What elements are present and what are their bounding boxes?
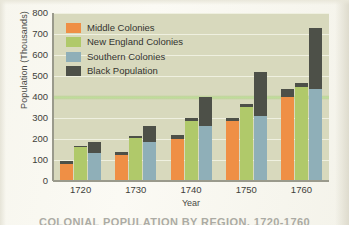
segment-new_england — [240, 107, 253, 181]
bar-1720-new_england[interactable] — [74, 146, 87, 181]
x-tick-1750: 1750 — [219, 184, 274, 195]
legend-swatch-icon — [66, 52, 81, 62]
legend-label: Middle Colonies — [87, 23, 155, 33]
y-tick-500: 500 — [14, 71, 48, 81]
legend-swatch-icon — [66, 23, 81, 33]
legend-label: New England Colonies — [87, 37, 183, 47]
y-tick-800: 800 — [14, 8, 48, 18]
x-tick-1760: 1760 — [274, 184, 329, 195]
legend-label: Black Population — [87, 66, 158, 76]
bar-1750-middle[interactable] — [226, 118, 239, 181]
bar-group-1750 — [219, 13, 274, 181]
figure-caption: COLONIAL POPULATION BY REGION, 1720-1760 — [0, 216, 349, 225]
legend-swatch-icon — [66, 66, 81, 76]
bar-1740-southern[interactable] — [199, 97, 212, 181]
scan-edge-left — [0, 0, 6, 225]
segment-new_england — [185, 121, 198, 181]
bar-1740-new_england[interactable] — [185, 118, 198, 181]
chart-legend: Middle ColoniesNew England ColoniesSouth… — [66, 22, 183, 80]
segment-black-population — [281, 89, 294, 97]
x-tick-1740: 1740 — [163, 184, 218, 195]
segment-southern — [199, 126, 212, 181]
y-tick-400: 400 — [14, 92, 48, 102]
y-axis-tick-labels: 0100200300400500600700800 — [14, 0, 48, 225]
y-tick-200: 200 — [14, 134, 48, 144]
segment-black-population — [88, 142, 101, 154]
x-tick-1730: 1730 — [108, 184, 163, 195]
legend-swatch-icon — [66, 37, 81, 47]
x-axis-tick-labels: 17201730174017501760 — [53, 184, 329, 195]
legend-label: Southern Colonies — [87, 52, 165, 62]
y-axis-line — [52, 13, 54, 181]
bar-1760-middle[interactable] — [281, 89, 294, 181]
y-tick-700: 700 — [14, 29, 48, 39]
segment-southern — [88, 153, 101, 181]
x-axis-label: Year — [53, 198, 329, 208]
segment-middle — [281, 97, 294, 181]
legend-item-1[interactable]: New England Colonies — [66, 37, 183, 48]
bar-1730-new_england[interactable] — [129, 136, 142, 181]
segment-southern — [309, 89, 322, 181]
segment-middle — [171, 139, 184, 181]
bar-1720-southern[interactable] — [88, 142, 101, 181]
segment-southern — [143, 142, 156, 181]
x-axis-line — [53, 180, 329, 182]
segment-southern — [254, 116, 267, 181]
bar-1730-southern[interactable] — [143, 126, 156, 181]
segment-new_england — [295, 87, 308, 181]
legend-item-2[interactable]: Southern Colonies — [66, 51, 183, 62]
scan-edge-top — [0, 0, 349, 5]
bar-1730-middle[interactable] — [115, 152, 128, 181]
segment-black-population — [309, 28, 322, 89]
scan-edge-right — [335, 0, 349, 225]
segment-middle — [226, 121, 239, 181]
bar-1760-southern[interactable] — [309, 28, 322, 181]
y-tick-600: 600 — [14, 50, 48, 60]
chart-figure: Population (Thousands) 01002003004005006… — [0, 0, 349, 225]
segment-middle — [115, 155, 128, 181]
bar-1740-middle[interactable] — [171, 135, 184, 181]
bar-1750-southern[interactable] — [254, 72, 267, 181]
y-tick-100: 100 — [14, 155, 48, 165]
segment-middle — [60, 164, 73, 181]
y-tick-300: 300 — [14, 113, 48, 123]
segment-black-population — [199, 97, 212, 126]
bar-1720-middle[interactable] — [60, 161, 73, 181]
segment-black-population — [143, 126, 156, 142]
bar-group-1760 — [274, 13, 329, 181]
segment-black-population — [254, 72, 267, 116]
y-tick-0: 0 — [14, 176, 48, 186]
segment-new_england — [129, 138, 142, 181]
legend-item-3[interactable]: Black Population — [66, 66, 183, 77]
legend-item-0[interactable]: Middle Colonies — [66, 22, 183, 33]
bar-1760-new_england[interactable] — [295, 83, 308, 181]
x-tick-1720: 1720 — [53, 184, 108, 195]
segment-new_england — [74, 147, 87, 181]
bar-1750-new_england[interactable] — [240, 104, 253, 181]
